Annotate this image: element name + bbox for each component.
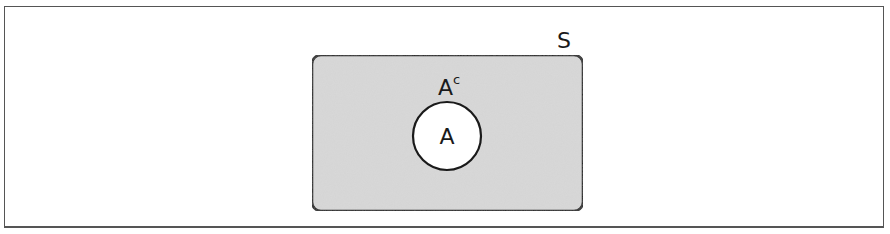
venn-diagram: S A c A	[0, 0, 890, 234]
complement-label-superscript: c	[453, 72, 460, 87]
complement-label-base: A	[438, 75, 453, 100]
set-A-label: A	[439, 124, 454, 149]
universe-label: S	[557, 28, 571, 53]
